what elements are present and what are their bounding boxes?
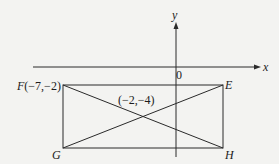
y-axis-label: y [171,8,178,22]
x-axis-label: x [262,60,269,74]
point-E-label: E [224,78,233,92]
origin-label: 0 [176,68,182,82]
y-axis-arrow-icon [174,22,179,29]
point-F-label: F(−7,−2) [16,79,61,93]
point-H-label: H [224,148,235,162]
x-axis-arrow-icon [254,65,261,70]
point-G-label: G [52,148,61,162]
coordinate-diagram: y x 0 F(−7,−2) E G H (−2,−4) [0,0,279,164]
intersection-label: (−2,−4) [118,93,155,107]
